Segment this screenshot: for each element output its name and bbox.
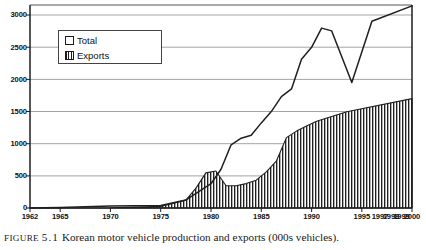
x-tick-1990: 1990 [303,212,320,221]
x-tick-1985: 1985 [253,212,270,221]
figure-caption: FIGURE 5.1 Korean motor vehicle producti… [4,231,424,243]
legend-label-total: Total [77,36,97,46]
x-tick-1980: 1980 [203,212,220,221]
x-tick-1965: 1965 [52,212,69,221]
legend-swatch-exports-icon [65,51,74,60]
legend-label-exports: Exports [77,51,109,61]
x-tick-1975: 1975 [152,212,169,221]
chart-legend: Total Exports [58,30,162,64]
chart-plot-area: 3000 2500 2000 1500 1000 500 0 [0,0,426,228]
x-tick-1970: 1970 [102,212,119,221]
x-axis-labels: 1962 1965 1970 1975 1980 1985 1990 1995 … [0,212,426,226]
figure-container: 3000 2500 2000 1500 1000 500 0 [0,0,426,250]
x-tick-1962: 1962 [22,212,39,221]
caption-number: 5.1 [42,231,59,243]
legend-swatch-total-icon [65,36,74,45]
caption-text: Korean motor vehicle production and expo… [62,231,339,243]
x-tick-1995: 1995 [354,212,371,221]
x-tick-2000: 2000 [404,212,421,221]
legend-item-exports: Exports [65,48,161,63]
caption-prefix: FIGURE [4,233,39,243]
legend-item-total: Total [65,33,161,48]
